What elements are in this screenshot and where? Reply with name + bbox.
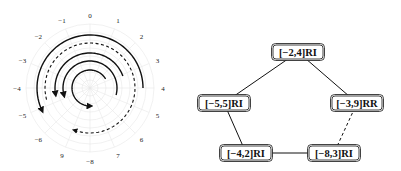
graph-node: [−3,9]RR xyxy=(331,95,384,112)
node-label: [−2,4]RI xyxy=(279,47,317,58)
state-graph: [−2,4]RI[−5,5]RI[−3,9]RR[−4,2]RI[−8,3]RI xyxy=(198,44,384,162)
node-label: [−8,3]RI xyxy=(315,148,353,159)
graph-nodes: [−2,4]RI[−5,5]RI[−3,9]RR[−4,2]RI[−8,3]RI xyxy=(198,44,384,162)
angle-label: −4 xyxy=(13,85,21,93)
grid-spoke xyxy=(45,88,90,133)
graph-node: [−4,2]RI xyxy=(220,145,273,162)
angle-label: −3 xyxy=(19,57,27,65)
angle-label: 2 xyxy=(140,33,144,41)
graph-node: [−5,5]RI xyxy=(198,95,251,112)
angle-label: 4 xyxy=(161,85,165,93)
angle-label: 3 xyxy=(156,57,160,65)
angle-label: 6 xyxy=(140,136,144,144)
graph-node: [−8,3]RI xyxy=(308,145,361,162)
angle-label: 5 xyxy=(156,112,160,120)
angle-label: −2 xyxy=(35,33,43,41)
figure: 01234567−89−6−5−4−3−2−1 [−2,4]RI[−5,5]RI… xyxy=(0,0,401,171)
polar-spiral-diagram: 01234567−89−6−5−4−3−2−1 xyxy=(13,12,165,166)
angle-label: −6 xyxy=(35,136,43,144)
node-label: [−4,2]RI xyxy=(227,148,265,159)
angle-label: 1 xyxy=(116,17,120,25)
node-label: [−3,9]RR xyxy=(336,98,378,109)
node-label: [−5,5]RI xyxy=(205,98,243,109)
graph-node: [−2,4]RI xyxy=(272,44,325,61)
angle-label: −8 xyxy=(86,158,94,166)
angle-label: 9 xyxy=(60,152,64,160)
angle-label: −5 xyxy=(19,112,27,120)
angle-label: 0 xyxy=(88,12,92,20)
angle-label: 7 xyxy=(116,152,120,160)
angle-label: −1 xyxy=(58,17,66,25)
